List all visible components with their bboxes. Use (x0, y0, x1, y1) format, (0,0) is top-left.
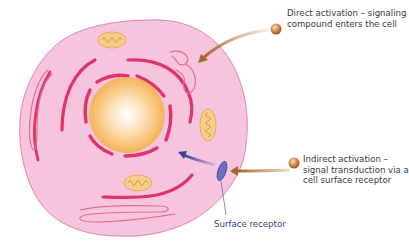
indirect-activation-label: Indirect activation – signal transductio… (303, 154, 409, 186)
indirect-activation-bullet (289, 158, 300, 169)
direct-activation-bullet (271, 24, 282, 35)
mitochondrion (124, 175, 152, 191)
surface-receptor-label: Surface receptor (214, 219, 286, 230)
mitochondrion (200, 109, 216, 141)
nucleus (89, 77, 165, 153)
mitochondrion (98, 32, 126, 48)
direct-activation-label: Direct activation – signaling compound e… (287, 8, 407, 29)
cell-diagram (0, 0, 409, 241)
